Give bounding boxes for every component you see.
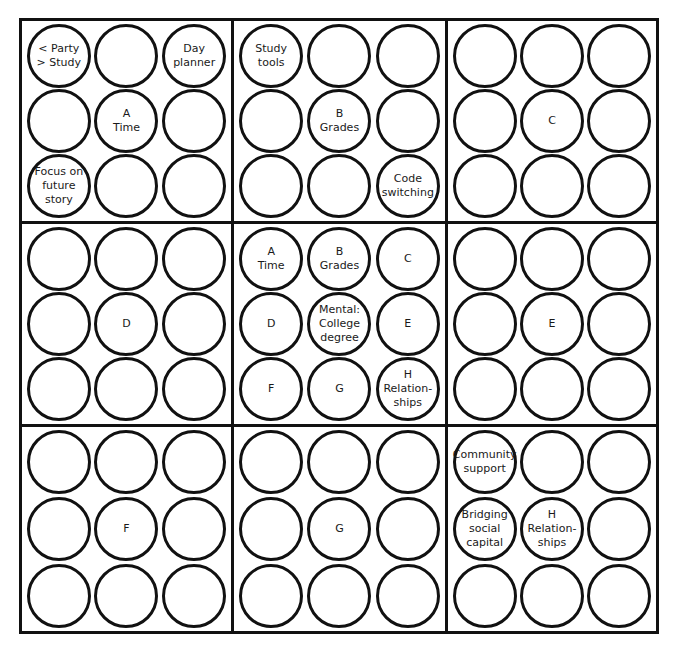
cell (237, 88, 305, 153)
goal-circle (27, 227, 91, 291)
block-F-outer: F (22, 427, 234, 631)
goal-circle: Focus on future story (27, 154, 91, 218)
cell (160, 226, 228, 291)
goal-circle (453, 564, 517, 628)
goal-circle (27, 564, 91, 628)
cell (305, 154, 373, 219)
circle-label: B Grades (318, 107, 361, 135)
circle-label: C (402, 252, 414, 266)
cell: D (93, 291, 161, 356)
goal-circle (453, 357, 517, 421)
goal-circle (27, 430, 91, 494)
block-E-outer: E (448, 224, 656, 427)
block-G-outer: G (234, 427, 448, 631)
cell (93, 154, 161, 219)
goal-circle (307, 154, 371, 218)
block-H-outer: Community supportBridging social capital… (448, 427, 656, 631)
block-A-outer: < Party > StudyDay plannerA TimeFocus on… (22, 21, 234, 224)
goal-circle (27, 89, 91, 153)
goal-circle (239, 89, 303, 153)
circle-label: G (333, 522, 346, 536)
goal-circle (453, 24, 517, 88)
goal-circle: B Grades (307, 227, 371, 291)
circle-label: B Grades (318, 245, 361, 273)
goal-circle (162, 357, 226, 421)
cell (374, 88, 442, 153)
cell: C (518, 88, 585, 153)
goal-circle (307, 564, 371, 628)
block-cells: G (237, 429, 442, 629)
circle-label: < Party > Study (35, 42, 83, 70)
goal-circle (376, 564, 440, 628)
goal-circle (239, 564, 303, 628)
cell (25, 226, 93, 291)
center-circle: D (94, 292, 158, 356)
cell (586, 357, 653, 422)
goal-circle (27, 497, 91, 561)
center-circle: A Time (94, 89, 158, 153)
block-D-outer: D (22, 224, 234, 427)
cell: < Party > Study (25, 23, 93, 88)
cell: F (93, 496, 161, 563)
cell: C (374, 226, 442, 291)
goal-circle (27, 292, 91, 356)
cell: F (237, 357, 305, 422)
circle-label: E (402, 317, 413, 331)
cell (25, 291, 93, 356)
goal-circle: Study tools (239, 24, 303, 88)
cell: B Grades (305, 226, 373, 291)
cell (305, 23, 373, 88)
goal-circle (376, 430, 440, 494)
goal-circle (376, 497, 440, 561)
circle-label: A Time (256, 245, 287, 273)
cell (586, 496, 653, 563)
goal-circle (587, 154, 651, 218)
center-circle: H Relation- ships (520, 497, 584, 561)
block-B-outer: Study toolsB GradesCode switching (234, 21, 448, 224)
cell (374, 496, 442, 563)
goal-circle (587, 89, 651, 153)
circle-label: H Relation- ships (526, 508, 579, 550)
cell (586, 23, 653, 88)
cell (93, 357, 161, 422)
cell: Bridging social capital (451, 496, 518, 563)
center-circle: E (520, 292, 584, 356)
cell: Community support (451, 429, 518, 496)
cell: Focus on future story (25, 154, 93, 219)
goal-circle: E (376, 292, 440, 356)
cell (25, 88, 93, 153)
cell (237, 496, 305, 563)
cell (451, 226, 518, 291)
goal-circle: Day planner (162, 24, 226, 88)
circle-label: D (120, 317, 132, 331)
cell (305, 562, 373, 629)
circle-label: Study tools (253, 42, 289, 70)
goal-circle (307, 24, 371, 88)
mandala-chart-grid: < Party > StudyDay plannerA TimeFocus on… (19, 18, 659, 634)
goal-circle (94, 154, 158, 218)
goal-circle (162, 89, 226, 153)
goal-circle (239, 154, 303, 218)
goal-circle (520, 24, 584, 88)
goal-circle: < Party > Study (27, 24, 91, 88)
goal-circle (587, 24, 651, 88)
goal-circle (376, 89, 440, 153)
cell (586, 291, 653, 356)
cell (518, 429, 585, 496)
block-cells: A TimeB GradesCDMental: College degreeEF… (237, 226, 442, 422)
goal-circle (453, 227, 517, 291)
cell (586, 154, 653, 219)
cell (586, 429, 653, 496)
circle-label: F (266, 382, 276, 396)
cell: D (237, 291, 305, 356)
cell (160, 154, 228, 219)
goal-circle: G (307, 357, 371, 421)
goal-circle (239, 430, 303, 494)
cell: H Relation- ships (374, 357, 442, 422)
goal-circle (587, 227, 651, 291)
cell (160, 562, 228, 629)
cell (586, 88, 653, 153)
cell (93, 562, 161, 629)
cell: Mental: College degree (305, 291, 373, 356)
goal-circle: A Time (239, 227, 303, 291)
